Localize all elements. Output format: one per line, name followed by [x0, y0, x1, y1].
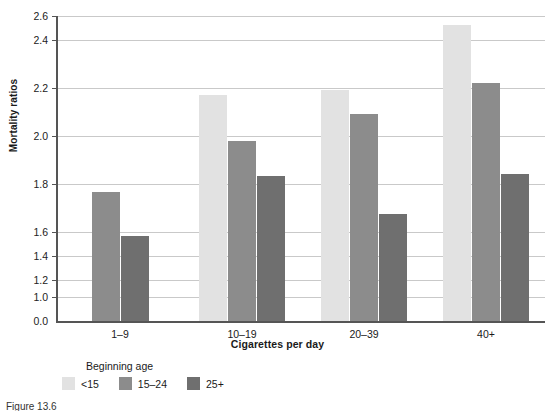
y-tick-label: 1.4 — [14, 251, 48, 261]
y-tick-label: 2.0 — [14, 131, 48, 141]
bar — [199, 95, 227, 321]
legend-swatch — [187, 377, 200, 390]
bar — [228, 141, 256, 321]
y-axis-title: Mortality ratios — [8, 51, 19, 181]
legend-swatch — [119, 377, 132, 390]
legend-label: <15 — [81, 378, 99, 390]
x-axis-title: Cigarettes per day — [0, 338, 555, 350]
legend-entries: <1515–2425+ — [62, 377, 362, 390]
figure-caption: Figure 13.6 — [6, 401, 57, 411]
y-tick-label: 0.0 — [14, 316, 48, 326]
legend: Beginning age <1515–2425+ — [62, 360, 362, 390]
bar — [443, 25, 471, 321]
legend-label: 25+ — [206, 378, 224, 390]
plot-area: 1–9 10–19 20–39 40+ — [56, 16, 545, 322]
bar — [501, 174, 529, 321]
y-tick-label: 1.6 — [14, 227, 48, 237]
legend-item[interactable]: <15 — [62, 377, 119, 390]
bar — [379, 214, 407, 321]
x-axis-line — [56, 321, 545, 323]
y-axis-line — [56, 16, 58, 322]
bar — [92, 192, 120, 321]
bar — [472, 83, 500, 321]
y-tick-label: 1.2 — [14, 275, 48, 285]
y-tick-label: 2.6 — [14, 11, 48, 21]
legend-swatch — [62, 377, 75, 390]
bar — [257, 176, 285, 321]
bar — [350, 114, 378, 321]
bar — [321, 90, 349, 321]
chart-figure: Mortality ratios 2.6 2.4 2.2 2.0 1.8 1.6… — [0, 0, 555, 411]
y-tick-label: 1.8 — [14, 179, 48, 189]
legend-item[interactable]: 25+ — [187, 377, 244, 390]
legend-label: 15–24 — [138, 378, 167, 390]
bar — [121, 236, 149, 321]
gridline — [56, 16, 545, 17]
y-tick-label: 2.2 — [14, 83, 48, 93]
legend-title: Beginning age — [86, 360, 362, 372]
y-tick-label: 1.0 — [14, 292, 48, 302]
legend-item[interactable]: 15–24 — [119, 377, 187, 390]
gridline — [56, 40, 545, 41]
y-tick-label: 2.4 — [14, 35, 48, 45]
